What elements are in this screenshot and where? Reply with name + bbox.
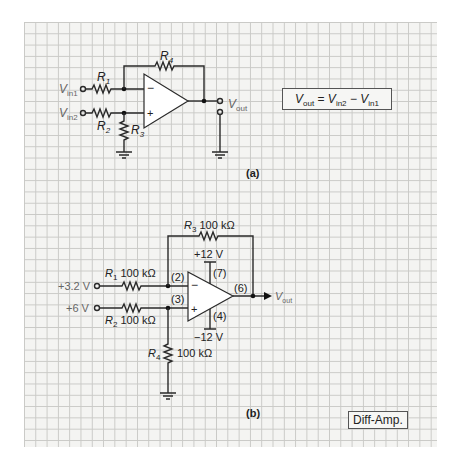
figure-b-label: (b) — [246, 407, 260, 419]
label-r1-b: R1 100 kΩ — [105, 267, 156, 282]
label-vin2: Vin2 — [59, 106, 78, 122]
input-3v2: +3.2 V — [58, 280, 91, 292]
equation-box: Vout = Vin2 − Vin1 — [282, 88, 392, 110]
label-r1-a: R1 — [97, 70, 110, 86]
label-r2-a: R2 — [97, 119, 111, 135]
label-r3-b: R3 100 kΩ — [184, 219, 235, 234]
label-vout-a: Vout — [228, 97, 248, 113]
label-r4-a: R4 — [160, 49, 174, 65]
svg-text:+: + — [191, 303, 197, 315]
figure-a-label: (a) — [246, 167, 260, 179]
supply-pos: +12 V — [194, 248, 224, 260]
pin-3: (3) — [171, 293, 184, 305]
schematic-canvas: − + − + — [0, 0, 458, 463]
label-r4-b: R4 — [148, 347, 161, 362]
pin-2: (2) — [171, 271, 184, 283]
label-r3-a: R3 — [131, 123, 145, 139]
input-6v: +6 V — [66, 302, 90, 314]
svg-text:−: − — [191, 278, 198, 292]
label-vout-b: Vout — [275, 290, 292, 304]
label-vin1: Vin1 — [59, 82, 78, 98]
svg-text:+: + — [147, 107, 153, 119]
label-r2-b: R2 100 kΩ — [105, 314, 156, 329]
svg-text:−: − — [147, 81, 154, 95]
diff-amp-tag: Diff-Amp. — [348, 411, 408, 429]
supply-neg: −12 V — [194, 331, 224, 343]
pin-4: (4) — [213, 310, 226, 322]
pin-6: (6) — [234, 282, 247, 294]
pin-7: (7) — [213, 267, 226, 279]
label-r4-value: 100 kΩ — [177, 347, 212, 359]
